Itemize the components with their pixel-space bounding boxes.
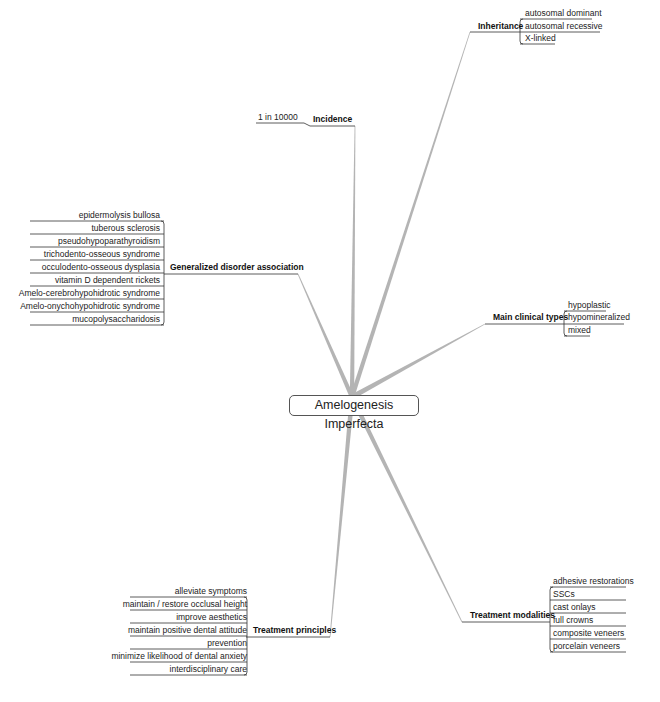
leaf-generalized-8[interactable]: Amelo-onychohypohidrotic syndrome	[20, 301, 160, 312]
branch-incidence	[350, 126, 356, 397]
connector-incidence	[304, 123, 310, 126]
topic-treatment-modalities[interactable]: Treatment modalities	[470, 610, 555, 621]
leaf-generalized-3[interactable]: pseudohypoparathyroidism	[58, 236, 160, 247]
leaf-generalized-7[interactable]: Amelo-cerebrohypohidrotic syndrome	[19, 288, 160, 299]
topic-incidence[interactable]: Incidence	[313, 114, 352, 125]
leaf-inheritance-1[interactable]: autosomal dominant	[525, 8, 602, 19]
leaf-modalities-1[interactable]: adhesive restorations	[553, 576, 634, 587]
leaf-principles-2[interactable]: maintain / restore occlusal height	[123, 599, 247, 610]
leaf-generalized-4[interactable]: trichodento-osseous syndrome	[44, 249, 160, 260]
leaf-incidence-1[interactable]: 1 in 10000	[258, 112, 298, 123]
leaf-inheritance-3[interactable]: X-linked	[525, 33, 556, 44]
leaf-modalities-6[interactable]: porcelain veneers	[553, 641, 620, 652]
leaf-generalized-6[interactable]: vitamin D dependent rickets	[55, 275, 160, 286]
leaf-modalities-2[interactable]: SSCs	[553, 589, 575, 600]
leaf-modalities-4[interactable]: full crowns	[553, 615, 593, 626]
topic-treatment-principles[interactable]: Treatment principles	[253, 625, 336, 636]
topic-inheritance[interactable]: Inheritance	[478, 21, 523, 32]
leaf-principles-3[interactable]: improve aesthetics	[176, 612, 247, 623]
leaf-modalities-5[interactable]: composite veneers	[553, 628, 624, 639]
leaf-generalized-1[interactable]: epidermolysis bullosa	[79, 210, 160, 221]
leaf-clinical-1[interactable]: hypoplastic	[568, 300, 611, 311]
leaf-principles-6[interactable]: minimize likelihood of dental anxiety	[111, 651, 247, 662]
leaf-principles-4[interactable]: maintain positive dental attitude	[128, 625, 247, 636]
leaf-generalized-9[interactable]: mucopolysaccharidosis	[72, 314, 160, 325]
leaf-principles-1[interactable]: alleviate symptoms	[175, 586, 247, 597]
leaf-inheritance-2[interactable]: autosomal recessive	[525, 21, 602, 32]
leaf-modalities-3[interactable]: cast onlays	[553, 602, 596, 613]
leaf-principles-5[interactable]: prevention	[207, 638, 247, 649]
topic-generalized-disorder-association[interactable]: Generalized disorder association	[170, 262, 304, 273]
leaf-clinical-2[interactable]: hypomineralized	[568, 312, 630, 323]
branch-generalized	[298, 274, 354, 398]
topic-main-clinical-types[interactable]: Main clinical types	[493, 312, 568, 323]
leaf-principles-7[interactable]: interdisciplinary care	[170, 664, 247, 675]
leaf-clinical-3[interactable]: mixed	[568, 325, 591, 336]
leaf-generalized-5[interactable]: occulodento-osseous dysplasia	[42, 262, 160, 273]
leaf-generalized-2[interactable]: tuberous sclerosis	[91, 223, 160, 234]
central-topic[interactable]: Amelogenesis Imperfecta	[289, 395, 419, 416]
